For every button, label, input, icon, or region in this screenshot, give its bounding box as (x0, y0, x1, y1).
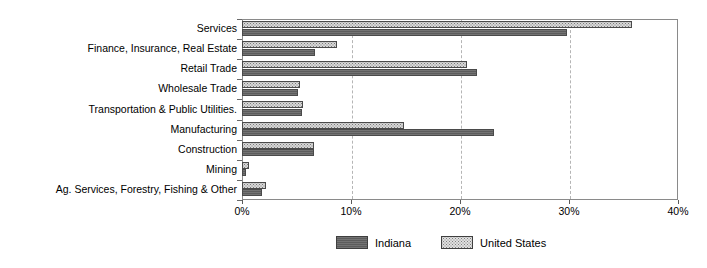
x-axis-tick (351, 200, 352, 204)
y-axis-label: Finance, Insurance, Real Estate (0, 43, 237, 54)
legend-item-united-states: United States (441, 236, 546, 249)
bar-united-states (242, 41, 337, 48)
legend-label-united-states: United States (480, 237, 546, 249)
chart-legend: Indiana United States (336, 236, 546, 249)
bar-united-states (242, 182, 266, 189)
bar-row (242, 39, 678, 59)
bar-united-states (242, 21, 632, 28)
bar-united-states (242, 122, 404, 129)
united-states-swatch-icon (441, 236, 473, 249)
x-axis-tick (460, 200, 461, 204)
bar-united-states (242, 81, 300, 88)
y-axis-label: Wholesale Trade (0, 83, 237, 94)
bar-row (242, 59, 678, 79)
bar-row (242, 180, 678, 200)
bar-row (242, 140, 678, 160)
x-axis-tick (242, 200, 243, 204)
bar-indiana (242, 89, 298, 96)
bar-row (242, 99, 678, 119)
y-axis-tick (237, 120, 242, 121)
bar-indiana (242, 109, 302, 116)
y-axis-tick (237, 59, 242, 60)
y-axis-tick (237, 39, 242, 40)
y-axis-label: Transportation & Public Utilities. (0, 104, 237, 115)
bar-indiana (242, 129, 494, 136)
y-axis-label: Mining (0, 164, 237, 175)
legend-item-indiana: Indiana (336, 236, 411, 249)
y-axis-tick (237, 19, 242, 20)
y-axis-tick (237, 180, 242, 181)
y-axis-tick (237, 99, 242, 100)
x-axis-tick-label: 20% (440, 205, 480, 217)
x-axis-tick-label: 0% (222, 205, 262, 217)
x-axis-tick-label: 40% (658, 205, 698, 217)
y-axis-tick (237, 140, 242, 141)
y-axis-label: Construction (0, 144, 237, 155)
bar-row (242, 160, 678, 180)
bar-indiana (242, 169, 246, 176)
bar-united-states (242, 61, 467, 68)
bar-indiana (242, 29, 567, 36)
bar-indiana (242, 189, 262, 196)
horizontal-bar-chart: ServicesFinance, Insurance, Real EstateR… (0, 0, 707, 268)
bar-indiana (242, 69, 477, 76)
bar-indiana (242, 49, 315, 56)
y-axis-tick (237, 79, 242, 80)
x-axis-tick-label: 30% (549, 205, 589, 217)
bar-united-states (242, 162, 249, 169)
y-axis-label: Retail Trade (0, 63, 237, 74)
bar-united-states (242, 101, 303, 108)
bar-row (242, 19, 678, 39)
y-axis-label: Ag. Services, Forestry, Fishing & Other (0, 184, 237, 195)
y-axis-label: Services (0, 23, 237, 34)
bar-indiana (242, 149, 314, 156)
bar-rows (242, 19, 678, 200)
y-axis-label: Manufacturing (0, 124, 237, 135)
indiana-swatch-icon (336, 236, 368, 249)
y-axis-tick (237, 200, 242, 201)
legend-label-indiana: Indiana (375, 237, 411, 249)
y-axis-tick (237, 160, 242, 161)
x-axis-tick (569, 200, 570, 204)
x-axis-tick-label: 10% (331, 205, 371, 217)
y-axis-category-labels: ServicesFinance, Insurance, Real EstateR… (0, 19, 237, 200)
bar-row (242, 120, 678, 140)
x-axis-tick (678, 200, 679, 204)
bar-united-states (242, 142, 314, 149)
bar-row (242, 79, 678, 99)
